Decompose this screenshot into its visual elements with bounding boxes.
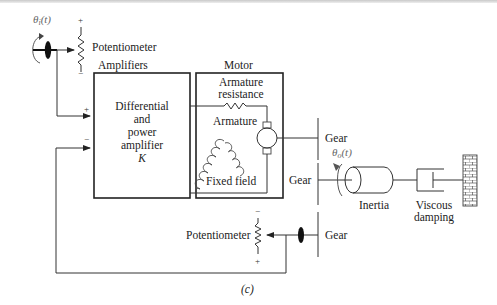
armature-resistance-label: Armature resistance xyxy=(218,76,263,100)
svg-text:and: and xyxy=(134,113,151,125)
svg-text:resistance: resistance xyxy=(218,88,263,100)
feedback-potentiometer-label: Potentiometer xyxy=(186,229,251,241)
amplifier-description: Differential and power amplifier K xyxy=(115,100,168,164)
motor-header: Motor xyxy=(224,59,253,71)
svg-text:θi(t): θi(t) xyxy=(33,13,51,27)
motor-armature-icon[interactable] xyxy=(257,122,277,154)
svg-text:Armature: Armature xyxy=(219,76,263,88)
input-potentiometer-icon[interactable] xyxy=(78,27,84,72)
viscous-damper-icon[interactable] xyxy=(417,169,463,191)
feedback-pot-minus: − xyxy=(255,206,260,216)
fixed-field-label: Fixed field xyxy=(206,175,256,187)
armature-label: Armature xyxy=(213,115,257,127)
position-control-diagram: θi(t) + − Potentiometer + − Amplifiers D… xyxy=(0,0,497,305)
svg-text:K: K xyxy=(137,152,147,164)
svg-text:Viscous: Viscous xyxy=(416,199,453,211)
lower-gear-label: Gear xyxy=(325,229,348,241)
amp-minus-sign: − xyxy=(84,134,89,144)
inertia-label: Inertia xyxy=(359,199,389,211)
input-angle-label: θi(t) xyxy=(33,13,51,27)
svg-text:θo(t): θo(t) xyxy=(332,146,352,160)
output-angle-label: θo(t) xyxy=(332,146,352,160)
svg-text:Differential: Differential xyxy=(115,100,168,112)
input-rotation-arrow-icon xyxy=(33,33,44,63)
svg-text:damping: damping xyxy=(414,211,454,224)
feedback-pot-plus: + xyxy=(255,256,260,266)
input-potentiometer-label: Potentiometer xyxy=(92,41,157,53)
fixed-wall-icon xyxy=(463,155,477,206)
svg-text:power: power xyxy=(128,126,157,139)
middle-gear-label: Gear xyxy=(289,174,312,186)
upper-gear-label: Gear xyxy=(325,132,348,144)
armature-resistor-icon xyxy=(224,103,246,109)
figure-caption: (c) xyxy=(241,283,254,296)
feedback-potentiometer-icon[interactable] xyxy=(255,218,261,254)
amplifier-header: Amplifiers xyxy=(98,59,148,72)
amp-plus-sign: + xyxy=(84,104,89,114)
viscous-damping-label: Viscous damping xyxy=(414,199,454,224)
inertia-cylinder-icon[interactable] xyxy=(345,167,393,193)
input-shaft-knob-icon[interactable] xyxy=(33,41,57,59)
input-pot-plus: + xyxy=(78,15,83,25)
feedback-shaft-knob-icon[interactable] xyxy=(298,227,304,243)
input-pot-minus: − xyxy=(78,68,83,78)
feedback-signal-wire xyxy=(56,148,286,273)
svg-text:amplifier: amplifier xyxy=(121,139,163,152)
